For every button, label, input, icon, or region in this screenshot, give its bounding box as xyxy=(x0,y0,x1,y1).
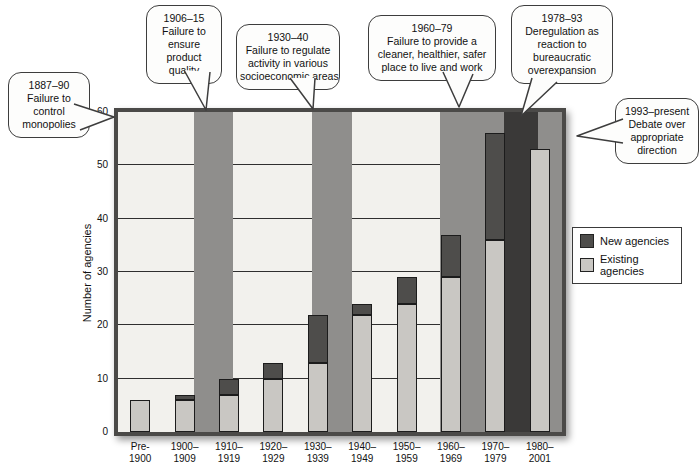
callout-line: 1906–15 xyxy=(150,12,218,25)
x-label-line: 1919 xyxy=(207,453,251,465)
y-tick-40: 40 xyxy=(74,212,108,226)
bar-1910-1919 xyxy=(219,379,239,432)
x-label-pre-1900: Pre-1900 xyxy=(118,441,162,465)
x-label-line: 1969 xyxy=(429,453,473,465)
callout-line: bureaucratic xyxy=(515,51,609,64)
legend-label-existing-agencies: Existing agencies xyxy=(600,253,674,277)
x-label-line: 1909 xyxy=(162,453,206,465)
callout-line: Debate over xyxy=(619,118,695,131)
bar-1920-1929 xyxy=(263,363,283,432)
callout-line: monopolies xyxy=(12,118,86,131)
bar-1980-2001 xyxy=(530,149,550,432)
x-label-line: 2001 xyxy=(518,453,562,465)
existing-agencies-swatch xyxy=(580,258,594,272)
legend-item-new-agencies: New agencies xyxy=(580,234,674,248)
bar-segment-new xyxy=(485,133,505,240)
y-tick-20: 20 xyxy=(74,318,108,332)
bar-segment-existing xyxy=(530,149,550,432)
x-label-1900-1909: 1900–1909 xyxy=(162,441,206,465)
callout-line: quality xyxy=(150,64,218,77)
bar-1950-1959 xyxy=(397,277,417,432)
bar-1900-1909 xyxy=(175,395,195,432)
bar-segment-existing xyxy=(352,315,372,432)
bar-1970-1979 xyxy=(485,133,505,432)
x-label-line: 1910– xyxy=(207,441,251,453)
callout-line: Failure to regulate xyxy=(240,44,336,57)
x-label-line: 1970– xyxy=(473,441,517,453)
bar-segment-new xyxy=(441,235,461,278)
callout-line: control xyxy=(12,105,86,118)
x-label-line: 1949 xyxy=(340,453,384,465)
bar-segment-existing xyxy=(263,379,283,432)
figure-canvas: Number of agencies 0102030405060 Pre-190… xyxy=(0,0,700,465)
callout-line: Failure to xyxy=(12,92,86,105)
x-label-line: 1900– xyxy=(162,441,206,453)
bar-segment-existing xyxy=(219,395,239,432)
x-label-line: 1979 xyxy=(473,453,517,465)
plot-frame xyxy=(114,108,566,436)
x-label-line: 1959 xyxy=(384,453,428,465)
x-label-line: 1929 xyxy=(251,453,295,465)
x-label-line: 1900 xyxy=(118,453,162,465)
callout-line: Failure to provide a xyxy=(372,35,492,48)
callout-line: ensure xyxy=(150,38,218,51)
bar-1960-1969 xyxy=(441,235,461,432)
x-label-1980-2001: 1980–2001 xyxy=(518,441,562,465)
x-label-line: 1940– xyxy=(340,441,384,453)
callout-line: Failure to xyxy=(150,25,218,38)
legend-label-new-agencies: New agencies xyxy=(600,235,669,247)
callout-1887-90: 1887–90Failure tocontrolmonopolies xyxy=(8,72,90,138)
x-label-1940-1949: 1940–1949 xyxy=(340,441,384,465)
callout-1993-present: 1993–presentDebate overappropriatedirect… xyxy=(615,98,699,164)
callout-line: reaction to xyxy=(515,38,609,51)
x-label-line: 1950– xyxy=(384,441,428,453)
bar-segment-existing xyxy=(308,363,328,432)
bar-segment-existing xyxy=(175,400,195,432)
x-label-line: 1960– xyxy=(429,441,473,453)
bar-1930-1939 xyxy=(308,315,328,432)
callout-line: 1960–79 xyxy=(372,22,492,35)
callout-line: Deregulation as xyxy=(515,25,609,38)
bar-segment-new xyxy=(308,315,328,363)
callout-line: product xyxy=(150,51,218,64)
legend-item-existing-agencies: Existing agencies xyxy=(580,253,674,277)
y-tick-50: 50 xyxy=(74,158,108,172)
x-label-line: 1939 xyxy=(296,453,340,465)
plot-area xyxy=(118,112,562,432)
callout-line: 1993–present xyxy=(619,105,695,118)
bar-segment-new xyxy=(352,304,372,315)
callout-1960-79: 1960–79Failure to provide acleaner, heal… xyxy=(368,15,496,81)
x-label-1920-1929: 1920–1929 xyxy=(251,441,295,465)
bar-segment-new xyxy=(263,363,283,379)
bar-segment-new xyxy=(397,277,417,304)
callout-line: 1930–40 xyxy=(240,31,336,44)
new-agencies-swatch xyxy=(580,234,594,248)
y-tick-10: 10 xyxy=(74,372,108,386)
bar-segment-new xyxy=(219,379,239,395)
callout-1978-93: 1978–93Deregulation asreaction tobureauc… xyxy=(511,5,613,84)
x-label-1910-1919: 1910–1919 xyxy=(207,441,251,465)
y-tick-0: 0 xyxy=(74,425,108,439)
x-label-1960-1969: 1960–1969 xyxy=(429,441,473,465)
callout-1930-40: 1930–40Failure to regulateactivity in va… xyxy=(236,24,340,90)
callout-line: appropriate xyxy=(619,131,695,144)
x-label-line: 1920– xyxy=(251,441,295,453)
x-label-1970-1979: 1970–1979 xyxy=(473,441,517,465)
callout-line: socioeconomic areas xyxy=(240,70,336,83)
callout-line: activity in various xyxy=(240,57,336,70)
x-label-1950-1959: 1950–1959 xyxy=(384,441,428,465)
callout-line: overexpansion xyxy=(515,64,609,77)
callout-1906-15: 1906–15Failure toensureproductquality xyxy=(146,5,222,84)
bar-1940-1949 xyxy=(352,304,372,432)
x-label-1930-1939: 1930–1939 xyxy=(296,441,340,465)
x-label-line: Pre- xyxy=(118,441,162,453)
x-label-line: 1980– xyxy=(518,441,562,453)
legend: New agencies Existing agencies xyxy=(572,227,682,284)
bar-pre-1900 xyxy=(130,400,150,432)
callout-line: 1978–93 xyxy=(515,12,609,25)
callout-line: 1887–90 xyxy=(12,79,86,92)
bar-segment-existing xyxy=(130,400,150,432)
callout-line: cleaner, healthier, safer xyxy=(372,48,492,61)
y-tick-30: 30 xyxy=(74,265,108,279)
bar-segment-existing xyxy=(485,240,505,432)
